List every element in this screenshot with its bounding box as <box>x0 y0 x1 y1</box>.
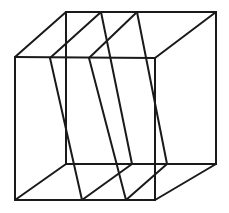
cube-edge <box>15 57 155 58</box>
plane-1 <box>50 12 132 200</box>
plane-1-back-edge <box>101 12 132 164</box>
plane-2-top-edge <box>89 12 137 58</box>
diagram-canvas <box>0 0 229 213</box>
plane-2-back-edge <box>137 12 167 164</box>
cube-edge <box>15 164 66 200</box>
cube-edge <box>155 164 216 200</box>
plane-2-bottom-edge <box>126 164 167 200</box>
cube-wireframe <box>15 12 216 200</box>
cube-with-planes-figure <box>0 0 229 213</box>
cube-edge <box>155 12 216 58</box>
plane-2-front-edge <box>89 58 126 200</box>
cutting-planes <box>50 12 167 200</box>
